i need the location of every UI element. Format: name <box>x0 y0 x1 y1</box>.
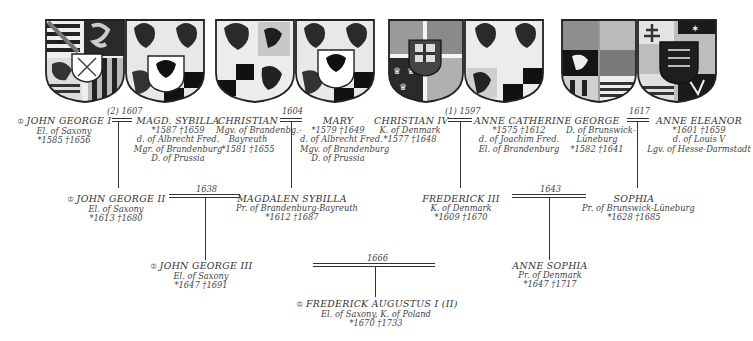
marriage-year: 1617 <box>629 106 650 116</box>
electoral-crown-icon: ♔ <box>150 262 157 271</box>
descent-line <box>291 121 292 188</box>
person-sophia: SOPHIA Pr. of Brunswick-Lüneburg *1628 †… <box>582 194 686 223</box>
marriage-year: 1604 <box>282 106 303 116</box>
person-john-george-iii: ♔JOHN GEORGE III El. of Saxony *1647 †16… <box>146 261 256 291</box>
electoral-crown-icon: ♔ <box>296 300 303 309</box>
person-magd-sybilla: MAGD. SYBILLA *1587 †1659 d. of Albrecht… <box>132 116 224 164</box>
marriage-year: 1643 <box>540 184 561 194</box>
descent-line <box>375 267 376 297</box>
svg-text:✶: ✶ <box>691 23 699 34</box>
marriage-line <box>112 118 132 122</box>
marriage-year: 1638 <box>196 184 217 194</box>
person-anne-sophia: ANNE SOPHIA Pr. of Denmark *1647 †1717 <box>500 261 600 290</box>
descent-line <box>118 121 119 188</box>
person-mary: MARY *1579 †1649 d. of Albrecht Fred. Mg… <box>300 116 376 164</box>
person-christian-bayreuth: CHRISTIAN Mgv. of Brandenbg.- Bayreuth *… <box>216 116 280 154</box>
person-anne-eleanor: ANNE ELEANOR *1601 †1659 d. of Louis V L… <box>646 116 752 154</box>
electoral-crown-icon: ♔ <box>67 195 74 204</box>
svg-text:♛: ♛ <box>393 66 401 76</box>
coat-of-arms-brunswick-hesse: ✶ <box>560 18 720 104</box>
marriage-line <box>313 263 435 267</box>
person-frederick-augustus-i: ♔FREDERICK AUGUSTUS I (II) El. of Saxony… <box>296 299 456 329</box>
descent-line <box>205 198 206 260</box>
electoral-crown-icon: ♔ <box>17 117 24 126</box>
person-christian-iv: CHRISTIAN IV K. of Denmark *1577 †1648 <box>374 116 446 145</box>
descent-line <box>460 121 461 188</box>
person-john-george-ii: ♔JOHN GEORGE II El. of Saxony *1613 †168… <box>66 194 166 224</box>
person-magdalen-sybilla: MAGDALEN SYBILLA Pr. of Brandenburg-Bayr… <box>236 194 348 223</box>
person-frederick-iii: FREDERICK III K. of Denmark *1609 †1670 <box>416 194 506 223</box>
person-anne-catherine: ANNE CATHERINE *1575 †1612 d. of Joachim… <box>474 116 564 154</box>
descent-line <box>549 198 550 260</box>
person-john-george-i: ♔JOHN GEORGE I El. of Saxony *1585 †1656 <box>14 116 114 146</box>
svg-text:♛: ♛ <box>399 82 407 92</box>
coat-of-arms-denmark-brandenburg: ♛♛♛ <box>387 18 547 104</box>
coat-of-arms-saxony-brandenburg <box>44 18 208 104</box>
coat-of-arms-bayreuth-brandenburg <box>214 18 378 104</box>
descent-line <box>637 121 638 188</box>
marriage-year: 1666 <box>367 253 388 263</box>
person-george-brunswick: GEORGE D. of Brunswick- Lüneburg *1582 †… <box>566 116 628 154</box>
